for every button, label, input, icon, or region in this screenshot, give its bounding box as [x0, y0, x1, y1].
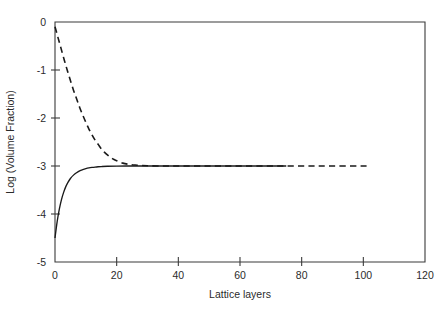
series-line-solid-rise: [55, 166, 286, 238]
y-tick-label: -3: [37, 160, 46, 172]
x-tick-label: 80: [296, 269, 308, 281]
axis-frame: [55, 22, 425, 262]
x-axis-ticks: 020406080100120: [52, 257, 434, 281]
x-axis-title: Lattice layers: [209, 288, 271, 300]
series-line-dashed-decay: [55, 27, 370, 166]
x-tick-label: 120: [416, 269, 434, 281]
x-tick-label: 0: [52, 269, 58, 281]
y-tick-label: 0: [40, 16, 46, 28]
x-tick-label: 20: [111, 269, 123, 281]
y-tick-label: -4: [37, 208, 46, 220]
x-tick-label: 40: [172, 269, 184, 281]
line-chart: 020406080100120 0-1-2-3-4-5 Lattice laye…: [0, 0, 446, 323]
data-series-group: [55, 27, 370, 238]
x-tick-label: 60: [234, 269, 246, 281]
y-tick-label: -5: [37, 256, 46, 268]
y-tick-label: -2: [37, 112, 46, 124]
chart-page: 020406080100120 0-1-2-3-4-5 Lattice laye…: [0, 0, 446, 323]
plot-frame: [55, 22, 425, 262]
y-tick-label: -1: [37, 64, 46, 76]
x-tick-label: 100: [355, 269, 373, 281]
y-axis-title: Log (Volume Fraction): [4, 90, 16, 193]
